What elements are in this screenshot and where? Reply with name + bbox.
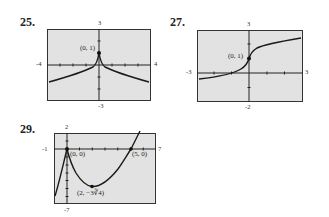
point-minimum xyxy=(90,185,94,189)
point-label-origin: (0, 0) xyxy=(70,151,85,158)
ymax-label-25: 3 xyxy=(98,20,101,27)
point-0-1 xyxy=(247,57,251,61)
ymin-label-25: -3 xyxy=(98,103,103,110)
xmin-label-27: -3 xyxy=(186,69,191,76)
point-label-5-0: (5, 0) xyxy=(132,151,147,158)
ymax-label-27: 3 xyxy=(247,21,250,28)
xmax-label-29: 7 xyxy=(158,146,161,153)
xmax-label-25: 4 xyxy=(154,61,157,68)
graph-25 xyxy=(47,29,151,101)
graph-27 xyxy=(197,30,303,102)
point-label-25: (0, 1) xyxy=(80,45,95,52)
point-label-minimum: (2, −3∛4) xyxy=(77,190,104,197)
problem-number-27: 27. xyxy=(170,15,185,30)
ymin-label-29: -7 xyxy=(64,207,69,214)
point-label-27: (0, 1) xyxy=(228,53,243,60)
point-0-0 xyxy=(65,147,69,151)
xmax-label-27: 3 xyxy=(305,69,308,76)
problem-number-29: 29. xyxy=(20,122,35,137)
ymin-label-27: -2 xyxy=(245,104,250,111)
graph-29 xyxy=(54,133,156,204)
ymax-label-29: 2 xyxy=(65,124,68,131)
xmin-label-25: -4 xyxy=(36,61,41,68)
point-0-1 xyxy=(97,51,101,55)
problem-number-25: 25. xyxy=(20,15,35,30)
xmin-label-29: -1 xyxy=(42,146,47,153)
